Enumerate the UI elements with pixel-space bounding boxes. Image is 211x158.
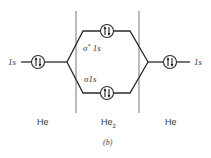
left-1s-label: 1s (8, 57, 17, 67)
right-atomic-orbital: 1s (148, 56, 203, 69)
right-1s-label: 1s (194, 57, 203, 67)
right-orbital-circle (164, 56, 177, 69)
antibonding-orbital-circle (101, 25, 114, 38)
left-atomic-orbital: 1s (8, 56, 67, 69)
mo-diagram: 1s σ* 1s σ1s (0, 0, 211, 158)
bonding-label: σ1s (84, 74, 97, 84)
left-orbital-circle (32, 56, 45, 69)
antibonding-label: σ* 1s (83, 43, 101, 53)
left-he-label: He (37, 117, 49, 127)
center-he2-label: He2 (101, 117, 117, 129)
antibonding-to-right-line (114, 31, 149, 62)
bonding-orbital: σ1s (84, 74, 114, 100)
bonding-orbital-circle (101, 87, 114, 100)
bonding-to-right-line (114, 62, 149, 93)
figure-caption: (b) (103, 138, 113, 147)
right-he-label: He (165, 117, 177, 127)
antibonding-orbital: σ* 1s (83, 25, 114, 54)
